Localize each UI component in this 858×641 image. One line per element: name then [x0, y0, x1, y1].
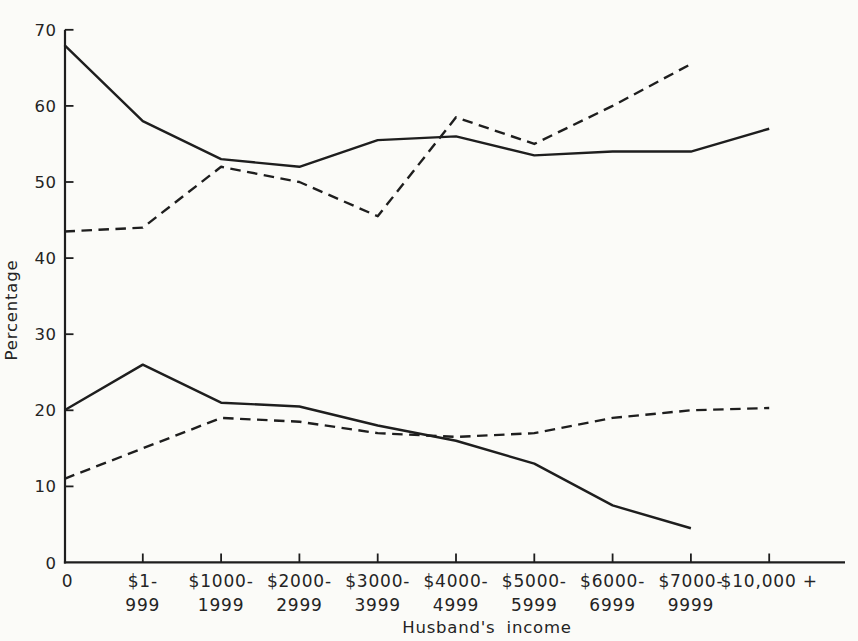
lower-solid-line: [65, 365, 691, 529]
x-tick-label: 2999: [276, 595, 322, 615]
y-axis-title: Percentage: [2, 260, 21, 361]
x-tick-label: 4999: [433, 595, 479, 615]
x-tick-label: $5000-: [502, 571, 567, 591]
x-tick-label: 999: [125, 595, 160, 615]
upper-solid-line: [65, 45, 770, 167]
x-axis-title: Husband's income: [402, 618, 572, 637]
line-chart: 0102030405060700$1-999$1000-1999$2000-29…: [0, 0, 858, 641]
x-tick-label: $7000-: [658, 571, 723, 591]
x-tick-label: $4000-: [423, 571, 488, 591]
figure: 0102030405060700$1-999$1000-1999$2000-29…: [0, 0, 858, 641]
x-tick-label: 3999: [354, 595, 400, 615]
y-tick-label: 10: [35, 477, 57, 496]
x-tick-label: $1000-: [189, 571, 254, 591]
x-tick-label: $1-: [128, 571, 158, 591]
x-tick-label: $2000-: [267, 571, 332, 591]
x-tick-label: $10,000 +: [721, 571, 818, 591]
y-tick-label: 0: [46, 554, 57, 573]
x-tick-label: 9999: [668, 595, 714, 615]
y-tick-label: 70: [35, 21, 57, 40]
x-tick-label: $3000-: [345, 571, 410, 591]
lower-dashed-line: [65, 408, 770, 479]
y-tick-label: 60: [35, 97, 57, 116]
x-tick-label: $6000-: [580, 571, 645, 591]
upper-dashed-line: [65, 64, 691, 231]
x-tick-label: 5999: [511, 595, 557, 615]
y-tick-label: 50: [35, 173, 57, 192]
y-tick-label: 30: [35, 325, 57, 344]
y-tick-label: 20: [35, 401, 57, 420]
y-tick-label: 40: [35, 249, 57, 268]
plot-area: 0102030405060700$1-999$1000-1999$2000-29…: [35, 21, 846, 615]
x-tick-label: 6999: [589, 595, 635, 615]
x-tick-label: 1999: [198, 595, 244, 615]
x-tick-label: 0: [62, 571, 74, 591]
